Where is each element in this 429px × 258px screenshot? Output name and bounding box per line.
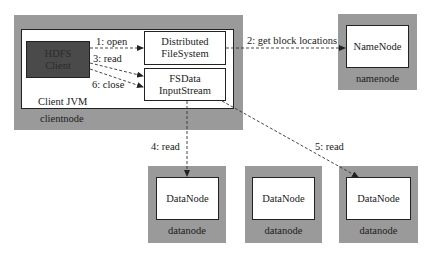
edge-label-read-datanode-3: 5: read	[315, 141, 344, 153]
datanode-3-box: DataNode	[346, 177, 411, 220]
datanode-3-label: datanode	[339, 225, 418, 237]
edge-label-read: 3: read	[93, 53, 122, 65]
edge-label-close: 6: close	[92, 79, 124, 91]
datanode-1-box: DataNode	[156, 177, 219, 220]
distributed-filesystem-box: Distributed FileSystem	[144, 31, 226, 65]
namenode-label: namenode	[338, 73, 417, 85]
clientnode-label: clientnode	[40, 113, 84, 125]
edge-label-get-block-locations: 2: get block locations	[247, 35, 337, 47]
datanode-2-box: DataNode	[252, 177, 315, 220]
client-jvm-label: Client JVM	[38, 96, 87, 108]
namenode-box: NameNode	[346, 25, 409, 68]
edge-label-open: 1: open	[96, 36, 127, 48]
datanode-1-label: datanode	[148, 225, 226, 237]
datanode-2-label: datanode	[245, 225, 322, 237]
edge-label-read-datanode-1: 4: read	[151, 141, 180, 153]
fsdata-inputstream-box: FSData InputStream	[144, 68, 226, 101]
hdfs-client-box: HDFS Client	[26, 41, 90, 78]
